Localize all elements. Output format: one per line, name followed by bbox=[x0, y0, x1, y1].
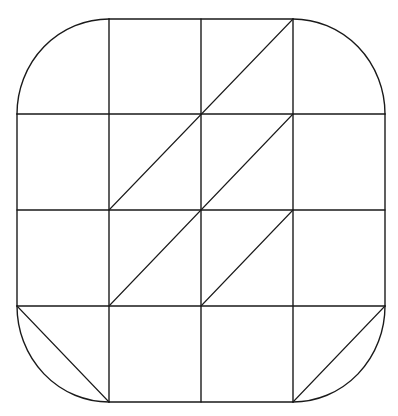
diagonal-short bbox=[201, 210, 293, 306]
chord-bottom-left bbox=[17, 306, 109, 402]
grid-diagram bbox=[0, 0, 398, 416]
arc-top-right bbox=[293, 19, 385, 114]
arc-top-left bbox=[17, 19, 109, 114]
chord-bottom-right bbox=[293, 306, 385, 402]
